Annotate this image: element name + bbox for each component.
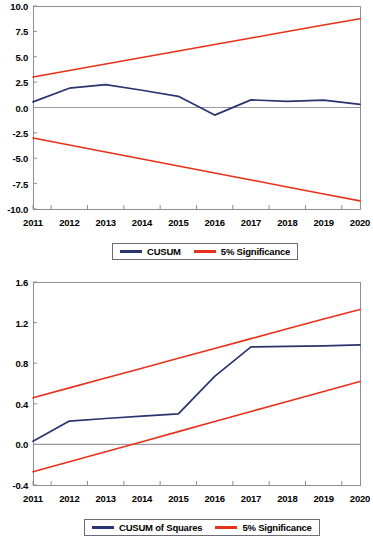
cusum-squares-chart-panel: 1.61.20.80.40.0-0.4 20112012201320142015…: [0, 276, 373, 552]
x-tick-label-cusum: 2011: [23, 218, 43, 228]
x-tick-label-cusum-squares: 2018: [277, 494, 297, 504]
x-tick-label-cusum: 2018: [277, 218, 297, 228]
x-tick-label-cusum: 2020: [350, 218, 370, 228]
x-tick-label-cusum: 2019: [313, 218, 333, 228]
legend-item-cusum-squares-0: CUSUM of Squares: [92, 522, 202, 533]
cusum-chart-panel: 10.07.55.02.50.0-2.5-5.0-7.5-10.0 201120…: [0, 0, 373, 276]
x-tick-label-cusum-squares: 2011: [23, 494, 43, 504]
cusum-squares-plot-area: 1.61.20.80.40.0-0.4: [0, 276, 373, 508]
x-axis-labels-bottom: 2011201220132014201520162017201820192020: [0, 494, 373, 512]
legend-label: 5% Significance: [221, 246, 290, 257]
legend-label: CUSUM of Squares: [119, 522, 202, 533]
x-axis-labels-top: 2011201220132014201520162017201820192020: [0, 218, 373, 236]
legend-swatch-icon: [120, 250, 142, 253]
x-tick-label-cusum: 2016: [204, 218, 224, 228]
legend-label: 5% Significance: [242, 522, 311, 533]
legend-item-cusum-squares-1: 5% Significance: [215, 522, 311, 533]
x-tick-label-cusum: 2014: [132, 218, 152, 228]
cusum-squares-plot-svg: [0, 276, 373, 508]
legend-item-cusum-1: 5% Significance: [194, 246, 290, 257]
legend-top: CUSUM5% Significance: [112, 243, 298, 260]
x-tick-label-cusum-squares: 2015: [168, 494, 188, 504]
cusum-plot-area: 10.07.55.02.50.0-2.5-5.0-7.5-10.0: [0, 0, 373, 232]
legend-label: CUSUM: [147, 246, 181, 257]
x-tick-label-cusum: 2015: [168, 218, 188, 228]
legend-swatch-icon: [194, 250, 216, 253]
x-tick-label-cusum-squares: 2013: [95, 494, 115, 504]
x-tick-label-cusum-squares: 2014: [132, 494, 152, 504]
legend-item-cusum-0: CUSUM: [120, 246, 181, 257]
series-line-cusum-0: [33, 85, 360, 115]
legend-swatch-icon: [215, 526, 237, 529]
series-line-cusum-1: [33, 19, 360, 77]
x-tick-label-cusum-squares: 2012: [59, 494, 79, 504]
x-tick-label-cusum: 2012: [59, 218, 79, 228]
x-tick-label-cusum-squares: 2020: [350, 494, 370, 504]
x-tick-label-cusum: 2013: [95, 218, 115, 228]
cusum-plot-svg: [0, 0, 373, 232]
x-tick-label-cusum-squares: 2017: [241, 494, 261, 504]
series-line-cusum-2: [33, 138, 360, 201]
x-tick-label-cusum-squares: 2019: [313, 494, 333, 504]
x-tick-label-cusum: 2017: [241, 218, 261, 228]
series-line-cusum-squares-1: [33, 309, 360, 397]
legend-bottom: CUSUM of Squares5% Significance: [84, 519, 320, 536]
legend-swatch-icon: [92, 526, 114, 529]
x-tick-label-cusum-squares: 2016: [204, 494, 224, 504]
